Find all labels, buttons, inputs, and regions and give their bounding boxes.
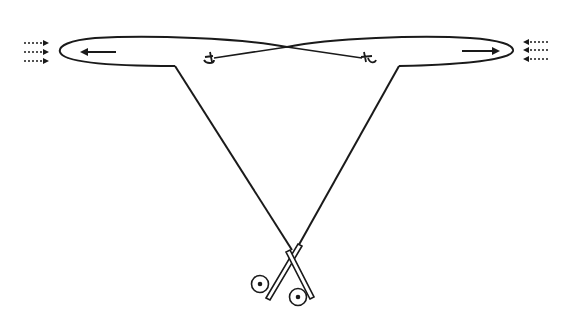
- crossing-lines: [214, 47, 362, 58]
- left-loop: [60, 37, 292, 250]
- right-marker-icon: [361, 52, 376, 62]
- left-wind-arrows-icon: [24, 43, 48, 61]
- right-wind-arrows-icon: [524, 42, 548, 59]
- diagram-canvas: [0, 0, 563, 315]
- left-marker-icon: [204, 52, 214, 63]
- handles-icon: [252, 244, 315, 306]
- right-loop: [287, 37, 513, 250]
